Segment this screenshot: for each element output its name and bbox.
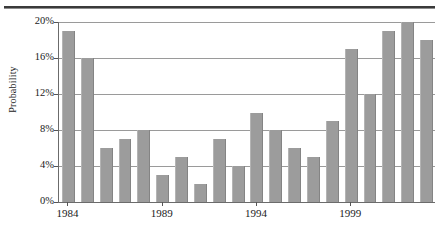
bar — [81, 58, 94, 202]
bar — [119, 139, 132, 202]
bar — [326, 121, 339, 202]
bar-series — [58, 22, 435, 202]
bar — [269, 130, 282, 202]
top-rule-thin-icon — [4, 8, 435, 9]
bar — [213, 139, 226, 202]
bar — [364, 94, 377, 202]
bar — [175, 157, 188, 202]
bar — [100, 148, 113, 202]
y-tick-label: 16% — [14, 52, 54, 63]
y-tick-label: 4% — [14, 160, 54, 171]
bar — [288, 148, 301, 202]
y-axis-ticks: 0%4%8%12%16%20% — [0, 22, 54, 202]
x-tick-label: 1994 — [245, 207, 267, 219]
bar — [345, 49, 358, 202]
y-tick-label: 8% — [14, 124, 54, 135]
bar — [307, 157, 320, 202]
bar — [156, 175, 169, 202]
bar — [382, 31, 395, 202]
x-tick-label: 1999 — [339, 207, 361, 219]
bar — [250, 113, 263, 202]
x-tick-label: 1984 — [56, 207, 78, 219]
x-axis-ticks: 1984198919941999 — [58, 202, 435, 232]
x-tick-mark — [162, 202, 163, 206]
bar — [420, 40, 433, 202]
x-tick-label: 1989 — [151, 207, 173, 219]
chart-figure: Probability 0%4%8%12%16%20% 198419891994… — [0, 0, 439, 237]
x-tick-mark — [256, 202, 257, 206]
x-tick-mark — [67, 202, 68, 206]
bar — [232, 166, 245, 202]
y-tick-label: 12% — [14, 88, 54, 99]
bar — [401, 22, 414, 202]
bar — [62, 31, 75, 202]
y-tick-label: 0% — [14, 196, 54, 207]
y-tick-label: 20% — [14, 16, 54, 27]
bar — [194, 184, 207, 202]
bar — [137, 130, 150, 202]
x-tick-mark — [350, 202, 351, 206]
